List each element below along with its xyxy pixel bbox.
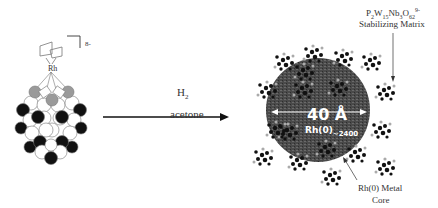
matrix-formula: P2W15Nb3O629- [366,7,420,20]
reaction-arrow [103,113,229,121]
core-label: Rh(0) Metal [358,183,402,193]
precursor-structure [15,36,87,165]
core-label-2: Core [372,195,390,205]
solvent-label: acetone [170,108,204,120]
diameter-label: 40 Å [307,105,347,124]
diagram-canvas [0,0,438,208]
rh-label: Rh [48,64,57,73]
core-formula: Rh(0)~2400 [305,125,358,138]
reagent-label: H2 [177,86,188,101]
ligand-icon [40,42,62,64]
precursor-charge: 8- [85,40,91,48]
matrix-label: Stabilizing Matrix [359,19,425,29]
